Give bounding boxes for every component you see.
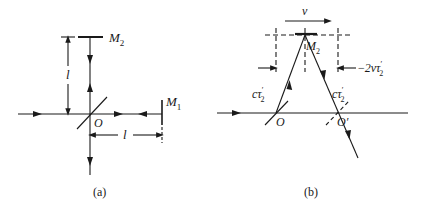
label-m1: M1 xyxy=(165,94,181,112)
label-origin-b: O xyxy=(276,115,285,129)
diagram-canvas: M2 M1 O l l (a) xyxy=(0,0,424,207)
label-displacement: −2vτ′2 xyxy=(358,60,383,78)
label-origin: O xyxy=(94,116,103,130)
interferometer-figure: M2 M1 O l l (a) xyxy=(0,0,424,207)
arrow-icon xyxy=(33,111,42,117)
label-length-horizontal: l xyxy=(123,127,127,142)
panel-a xyxy=(18,37,162,175)
arrow-icon xyxy=(345,130,351,140)
arrow-icon xyxy=(87,83,93,92)
arrow-icon xyxy=(87,55,93,64)
leg-up xyxy=(276,35,305,113)
label-origin-prime: O′ xyxy=(337,115,349,129)
arrow-icon xyxy=(87,157,93,166)
arrow-icon xyxy=(138,111,147,117)
label-m2: M2 xyxy=(108,30,124,48)
caption-b: (b) xyxy=(304,185,318,199)
arrow-icon xyxy=(232,110,241,116)
label-velocity: v xyxy=(302,4,308,18)
label-length-vertical: l xyxy=(66,67,70,82)
caption-a: (a) xyxy=(93,185,106,199)
label-left-leg: cτ′2 xyxy=(252,86,264,104)
arrow-icon xyxy=(114,111,123,117)
